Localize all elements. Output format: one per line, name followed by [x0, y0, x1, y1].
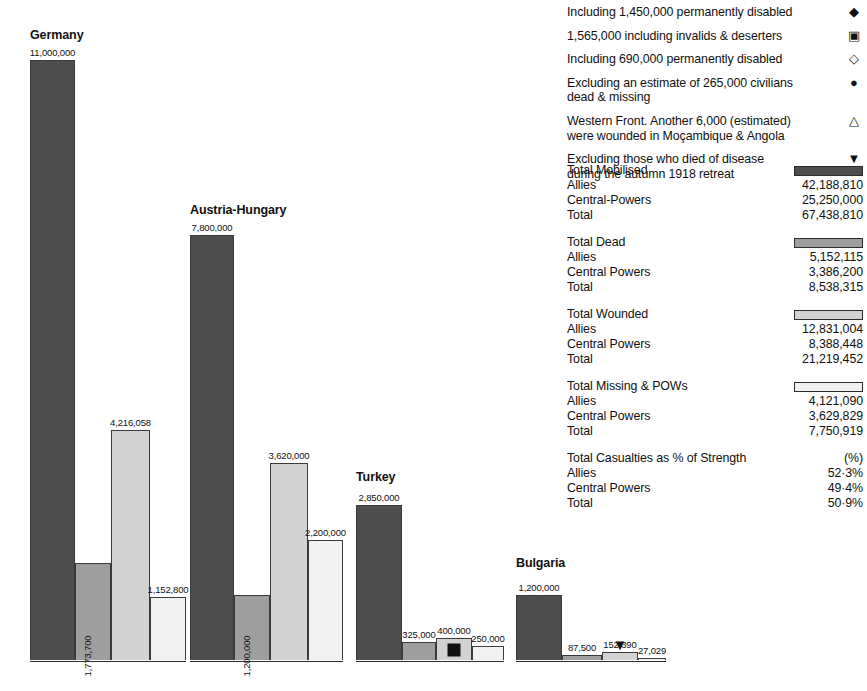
bar-value-label: 7,800,000	[192, 222, 233, 233]
bar[interactable]	[111, 430, 150, 660]
bar-wrapper: 325,000	[402, 642, 436, 660]
legend-row: Allies42,188,810	[567, 178, 863, 193]
bar[interactable]	[356, 505, 402, 660]
legend-row-label: Central Powers	[567, 409, 650, 424]
bar[interactable]: 1,773,700	[75, 563, 111, 660]
group-title: Bulgaria	[516, 556, 565, 570]
legend-swatch	[794, 310, 863, 320]
bar[interactable]	[516, 595, 562, 660]
bar-wrapper: 2,200,000	[308, 540, 343, 660]
footnote-text: Western Front. Another 6,000 (estimated)…	[567, 114, 795, 143]
legend-row-label: Central Powers	[567, 481, 650, 496]
legend-row-value: 3,386,200	[809, 265, 863, 280]
bar-group-austria-hungary: Austria-Hungary7,800,0001,200,0003,620,0…	[190, 203, 343, 691]
bar[interactable]	[150, 597, 186, 660]
legend-row-value: 4,121,090	[809, 394, 863, 409]
legend-row-label: Allies	[567, 322, 596, 337]
bar-wrapper: 3,620,000	[270, 463, 308, 660]
footnote-row: Excluding an estimate of 265,000 civilia…	[567, 76, 867, 105]
legend-header: Total Mobilised	[567, 163, 863, 178]
legend-row-value: 25,250,000	[802, 193, 863, 208]
axis-baseline	[356, 661, 504, 662]
bar-value-label: 1,773,700	[82, 636, 93, 677]
bar-value-label: 1,200,000	[241, 636, 252, 677]
legend-row: Total8,538,315	[567, 280, 863, 295]
legend-row: Total21,219,452	[567, 352, 863, 367]
bar[interactable]	[270, 463, 308, 660]
footnote-text: Excluding an estimate of 265,000 civilia…	[567, 76, 795, 105]
legend-title: Total Casualties as % of Strength	[567, 451, 746, 466]
legend-block: Total Casualties as % of Strength(%)Alli…	[567, 451, 863, 511]
legend-row: Total7,750,919	[567, 424, 863, 439]
legend-row: Allies5,152,115	[567, 250, 863, 265]
legend-row-value: 42,188,810	[802, 178, 863, 193]
filled-circle-icon: ●	[841, 76, 867, 91]
group-title: Austria-Hungary	[190, 203, 286, 217]
legend-row-label: Allies	[567, 394, 596, 409]
legend-header: Total Casualties as % of Strength(%)	[567, 451, 863, 466]
legend-title: Total Mobilised	[567, 163, 647, 178]
legend-block: Total DeadAllies5,152,115Central Powers3…	[567, 235, 863, 295]
bar-value-label: 2,850,000	[359, 492, 400, 503]
footnote-text: 1,565,000 including invalids & deserters	[567, 29, 795, 44]
filled-diamond-icon: ◆	[841, 5, 867, 20]
legend-row-label: Total	[567, 496, 593, 511]
legend-row-label: Total	[567, 208, 593, 223]
legend-row-label: Total	[567, 352, 593, 367]
bar[interactable]	[402, 642, 436, 660]
bar-wrapper: 1,200,000	[234, 595, 270, 660]
bar-wrapper: 250,000	[472, 646, 504, 660]
legend-row: Central Powers3,629,829	[567, 409, 863, 424]
bar-value-label: 4,216,058	[110, 417, 151, 428]
footnote-text: Including 1,450,000 permanently disabled	[567, 5, 795, 20]
legend-row-value: 67,438,810	[802, 208, 863, 223]
dotted-square-icon: ▣	[841, 29, 867, 44]
legend-row-label: Total	[567, 424, 593, 439]
legend-percent-unit: (%)	[844, 451, 863, 466]
bar[interactable]	[190, 235, 234, 660]
bar-wrapper: 400,000	[436, 638, 472, 660]
bar[interactable]	[308, 540, 343, 660]
legend-row: Central Powers8,388,448	[567, 337, 863, 352]
footnote-row: 1,565,000 including invalids & deserters…	[567, 29, 867, 44]
bar-value-label: 2,200,000	[305, 527, 346, 538]
bar-wrapper: 1,200,000	[516, 595, 562, 660]
legend-title: Total Missing & POWs	[567, 379, 688, 394]
group-title: Germany	[30, 28, 84, 42]
legend-row-label: Central-Powers	[567, 193, 651, 208]
legend-row-value: 3,629,829	[809, 409, 863, 424]
footnote-text: Including 690,000 permanently disabled	[567, 52, 795, 67]
bar-group-turkey: Turkey2,850,000325,000400,000250,000	[356, 470, 504, 691]
legend-row-label: Central Powers	[567, 265, 650, 280]
bar-wrapper: 7,800,000	[190, 235, 234, 660]
legend-row-label: Allies	[567, 178, 596, 193]
legend-swatch	[794, 382, 863, 392]
bar[interactable]	[30, 60, 75, 660]
legend-row-label: Central Powers	[567, 337, 650, 352]
bar[interactable]	[472, 646, 504, 660]
legend-row-value: 8,388,448	[809, 337, 863, 352]
legend-row: Allies12,831,004	[567, 322, 863, 337]
legend-row-value: 52·3%	[828, 466, 863, 481]
bar-wrapper: 4,216,058	[111, 430, 150, 660]
legend-header: Total Wounded	[567, 307, 863, 322]
legend-row-value: 7,750,919	[809, 424, 863, 439]
bar[interactable]: 1,200,000	[234, 595, 270, 660]
bar-value-label: 250,000	[471, 633, 504, 644]
axis-baseline	[190, 661, 343, 662]
filled-square-marker-icon	[448, 643, 461, 656]
legend-row: Central-Powers25,250,000	[567, 193, 863, 208]
legend-row-value: 12,831,004	[802, 322, 863, 337]
legend-row-value: 8,538,315	[809, 280, 863, 295]
legend-row-label: Allies	[567, 250, 596, 265]
bar-value-label: 1,152,800	[148, 584, 189, 595]
open-triangle-icon: △	[841, 114, 867, 129]
bar-value-label: 3,620,000	[269, 450, 310, 461]
legend-row-value: 50·9%	[828, 496, 863, 511]
legend-row-label: Allies	[567, 466, 596, 481]
legend-row-label: Total	[567, 280, 593, 295]
bar[interactable]	[436, 638, 472, 660]
ww1-casualties-infographic: Germany11,000,0001,773,7004,216,0581,152…	[0, 0, 867, 691]
legend-row: Total67,438,810	[567, 208, 863, 223]
bar-group-germany: Germany11,000,0001,773,7004,216,0581,152…	[30, 28, 186, 691]
